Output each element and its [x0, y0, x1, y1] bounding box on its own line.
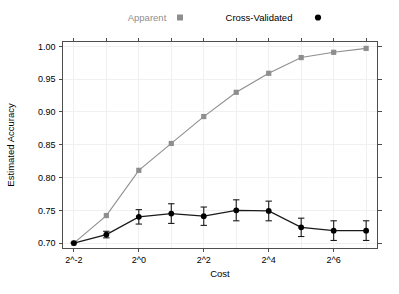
- data-point-apparent: [169, 141, 174, 146]
- y-tick-label: 1.00: [38, 42, 56, 52]
- x-tick-label: 2^-2: [65, 255, 82, 265]
- legend-marker-apparent-square: [177, 15, 183, 21]
- data-point-cross-validated: [363, 228, 369, 234]
- data-point-apparent: [201, 114, 206, 119]
- x-axis-tick-labels: 2^-22^02^22^42^6: [65, 255, 341, 265]
- y-axis-ticks-right: [378, 46, 382, 243]
- accuracy-vs-cost-chart: Apparent Cross-Validated 0.700.750.800.8…: [0, 0, 399, 294]
- x-tick-label: 2^2: [197, 255, 211, 265]
- y-tick-label: 0.85: [38, 140, 56, 150]
- x-axis-title: Cost: [210, 268, 230, 279]
- y-tick-label: 0.95: [38, 74, 56, 84]
- y-tick-label: 0.90: [38, 107, 56, 117]
- series-line-cross-validated: [74, 210, 366, 243]
- data-point-cross-validated: [103, 232, 109, 238]
- y-axis-title: Estimated Accuracy: [5, 103, 16, 187]
- legend-label-cross-validated: Cross-Validated: [226, 12, 293, 23]
- x-axis-ticks: [74, 248, 334, 252]
- data-point-apparent: [266, 71, 271, 76]
- data-point-cross-validated: [233, 207, 239, 213]
- x-tick-label: 2^0: [132, 255, 146, 265]
- series-apparent: [71, 46, 368, 246]
- chart-legend: Apparent Cross-Validated: [128, 12, 321, 23]
- data-point-cross-validated: [136, 214, 142, 220]
- data-point-cross-validated: [168, 211, 174, 217]
- data-point-apparent: [331, 50, 336, 55]
- y-axis-ticks: [59, 46, 63, 243]
- chart-gridlines: [63, 42, 378, 249]
- y-axis-tick-labels: 0.700.750.800.850.900.951.00: [38, 42, 56, 249]
- data-point-cross-validated: [298, 224, 304, 230]
- data-point-cross-validated: [71, 240, 77, 246]
- legend-label-apparent: Apparent: [128, 12, 167, 23]
- y-tick-label: 0.80: [38, 173, 56, 183]
- data-point-apparent: [136, 168, 141, 173]
- chart-container: Apparent Cross-Validated 0.700.750.800.8…: [0, 0, 399, 294]
- data-point-cross-validated: [331, 228, 337, 234]
- x-axis-ticks-top: [74, 38, 366, 42]
- data-point-apparent: [299, 55, 304, 60]
- data-point-apparent: [234, 90, 239, 95]
- x-tick-label: 2^4: [262, 255, 276, 265]
- data-point-cross-validated: [201, 213, 207, 219]
- x-tick-label: 2^6: [327, 255, 341, 265]
- legend-marker-cross-validated-circle: [315, 14, 321, 20]
- data-point-cross-validated: [266, 208, 272, 214]
- y-tick-label: 0.70: [38, 238, 56, 248]
- data-point-apparent: [104, 213, 109, 218]
- series-cross-validated: [71, 200, 370, 246]
- data-point-apparent: [364, 46, 369, 51]
- y-tick-label: 0.75: [38, 206, 56, 216]
